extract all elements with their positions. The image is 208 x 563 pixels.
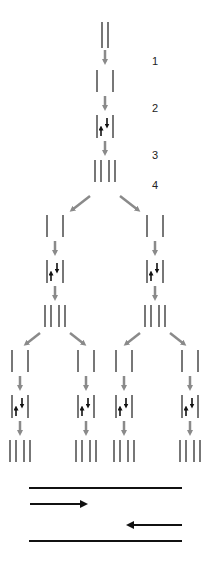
parent-dna	[102, 22, 108, 62]
generation-3-a	[10, 350, 30, 462]
generation-3-c	[114, 350, 134, 462]
branch-arrows-1	[72, 196, 138, 210]
generation-3-b	[76, 350, 96, 462]
branch-arrows-2	[26, 333, 184, 344]
legend	[29, 488, 182, 541]
generation-2-left	[45, 215, 65, 327]
replication-diagram	[0, 0, 208, 563]
generation-1	[95, 70, 115, 182]
generation-2-right	[145, 215, 165, 327]
generation-3-d	[180, 350, 200, 462]
